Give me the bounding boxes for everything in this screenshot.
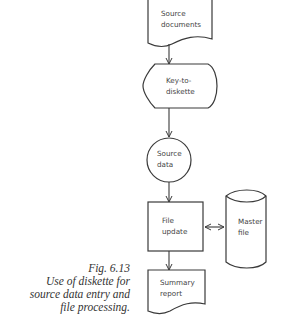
node-key-to-diskette-label-2: diskette	[166, 87, 195, 96]
caption-line-1: Use of diskette for	[30, 275, 130, 288]
node-source-documents-label-2: documents	[161, 20, 201, 29]
node-master-file-label-2: file	[238, 228, 250, 237]
node-summary-report-label-2: report	[160, 289, 182, 298]
node-key-to-diskette: Key-to- diskette	[143, 64, 217, 108]
node-file-update-label-2: update	[162, 227, 188, 236]
node-source-data: Source data	[147, 138, 191, 182]
node-source-data-label-2: data	[157, 160, 173, 169]
node-summary-report: Summary report	[148, 270, 205, 314]
caption-line-2: source data entry and	[30, 288, 130, 301]
node-file-update: File update	[148, 202, 203, 251]
node-source-documents-label-1: Source	[161, 9, 186, 18]
node-source-data-label-1: Source	[157, 149, 182, 158]
figure-number: Fig. 6.13	[30, 262, 130, 275]
caption-line-3: file processing.	[30, 301, 130, 314]
node-source-documents: Source documents	[148, 0, 212, 47]
node-master-file-label-1: Master	[238, 217, 263, 226]
node-summary-report-label-1: Summary	[160, 278, 195, 287]
figure-caption: Fig. 6.13 Use of diskette for source dat…	[30, 262, 130, 314]
node-key-to-diskette-label-1: Key-to-	[166, 76, 192, 85]
node-master-file: Master file	[226, 190, 266, 268]
node-file-update-label-1: File	[162, 216, 175, 225]
